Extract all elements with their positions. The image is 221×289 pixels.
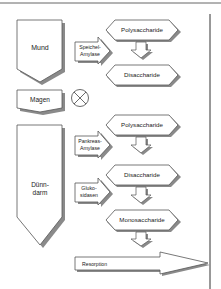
organ-label-line1: Dünn- [31, 181, 49, 188]
svg-text:Pankreas-: Pankreas- [78, 138, 102, 144]
substrate-disaccharide-2: Disaccharide [106, 165, 181, 187]
svg-text:Speichel-: Speichel- [79, 44, 101, 50]
down-arrow-1 [131, 42, 153, 60]
substrate-polysaccharide-2: Polysaccharide [106, 115, 181, 137]
enzyme-speichel-amylase: Speichel- Amylase [75, 37, 113, 66]
svg-text:Gluko-: Gluko- [81, 185, 97, 191]
enzyme-pankreas-amylase: Pankreas- Amylase [75, 131, 113, 160]
organ-label-line2: darm [33, 189, 48, 196]
down-arrow-3 [131, 187, 153, 205]
svg-text:Amylase: Amylase [80, 51, 100, 57]
svg-text:Polysaccharide: Polysaccharide [121, 121, 164, 128]
organ-magen: Magen [17, 90, 65, 115]
svg-text:Amylase: Amylase [80, 145, 100, 151]
organ-label: Magen [30, 96, 50, 104]
substrate-monosaccharide: Monosaccharide [106, 210, 181, 232]
svg-text:Disaccharide: Disaccharide [124, 171, 160, 178]
svg-text:sidasen: sidasen [80, 192, 98, 198]
resorption-arrow: Resorption [75, 252, 210, 276]
svg-text:Monosaccharide: Monosaccharide [119, 216, 165, 223]
organ-duenndarm: Dünn- darm [17, 125, 65, 248]
organ-mund: Mund [17, 20, 65, 85]
down-arrow-4 [131, 232, 153, 248]
organ-label: Mund [31, 44, 49, 51]
down-arrow-2 [131, 137, 153, 155]
substrate-disaccharide-1: Disaccharide [106, 65, 181, 87]
svg-text:Polysaccharide: Polysaccharide [121, 26, 164, 33]
digestion-diagram: Mund Magen Dünn- darm Speichel- Amylase … [0, 0, 221, 289]
substrate-polysaccharide-1: Polysaccharide [106, 20, 181, 42]
svg-text:Resorption: Resorption [82, 261, 107, 267]
no-digestion-icon [72, 90, 89, 107]
enzyme-glukosidasen: Gluko- sidasen [75, 178, 113, 207]
svg-text:Disaccharide: Disaccharide [124, 71, 160, 78]
